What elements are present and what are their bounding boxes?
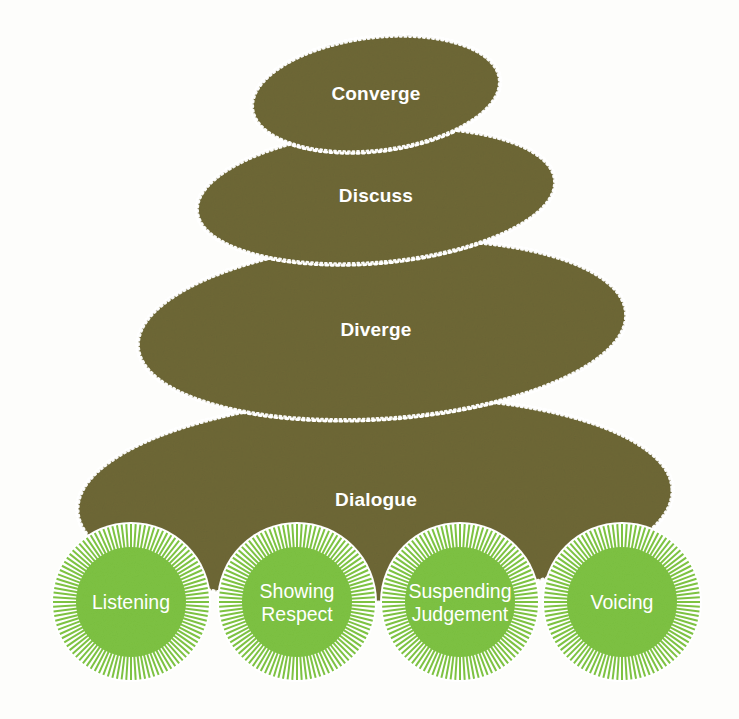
foundation-label-listening: Listening <box>92 591 170 613</box>
stone-label-converge: Converge <box>331 83 420 104</box>
stone-label-dialogue: Dialogue <box>335 489 417 510</box>
foundation-label-showing-respect-line-1: Showing <box>260 580 335 602</box>
foundation-label-suspending-judgement-line-1: Suspending <box>408 580 511 602</box>
stack-canvas: ConvergeDiscussDivergeDialogue Listening… <box>0 0 739 719</box>
foundation-label-suspending-judgement-line-2: Judgement <box>412 603 509 625</box>
dialogue-stack-diagram: ConvergeDiscussDivergeDialogue Listening… <box>0 0 739 719</box>
stone-label-diverge: Diverge <box>340 319 411 340</box>
foundation-label-showing-respect-line-2: Respect <box>261 603 333 625</box>
stone-label-discuss: Discuss <box>339 185 413 206</box>
stone-stack <box>73 22 677 614</box>
foundation-label-voicing: Voicing <box>591 591 654 613</box>
